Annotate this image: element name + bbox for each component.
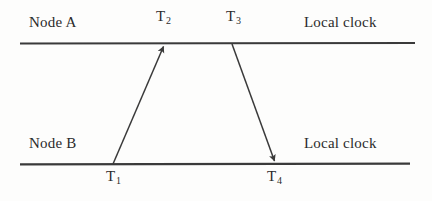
timestamp-t1-label: T1 (106, 168, 121, 185)
timestamp-t4-base: T (267, 168, 276, 184)
node-a-timeline (20, 43, 415, 44)
timestamp-t2-label: T2 (156, 8, 171, 25)
timestamp-t3-label: T3 (226, 8, 241, 25)
node-b-timeline (20, 164, 410, 165)
timestamp-t1-base: T (106, 168, 115, 184)
timestamp-t2-base: T (156, 8, 165, 24)
timestamp-t1-subscript: 1 (116, 175, 121, 186)
request-arrow (113, 47, 164, 165)
timestamp-t3-base: T (226, 8, 235, 24)
timestamp-t4-label: T4 (267, 168, 282, 185)
timestamp-t2-subscript: 2 (166, 15, 171, 26)
reply-arrow (232, 44, 275, 161)
node-a-label: Node A (29, 14, 76, 31)
node-a-local-clock-label: Local clock (304, 14, 377, 31)
timestamp-t4-subscript: 4 (277, 175, 282, 186)
node-b-local-clock-label: Local clock (304, 135, 377, 152)
node-b-label: Node B (29, 135, 76, 152)
timing-diagram: Node A Local clock Node B Local clock T1… (0, 0, 432, 201)
timestamp-t3-subscript: 3 (236, 15, 241, 26)
